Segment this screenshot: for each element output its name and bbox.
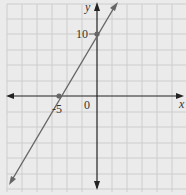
x-axis-label: x bbox=[178, 97, 185, 111]
chart: 10 -5 0 y x bbox=[0, 0, 186, 195]
point-x-intercept bbox=[56, 93, 61, 98]
line-arrow-up-icon bbox=[110, 2, 118, 11]
origin-label: 0 bbox=[84, 98, 90, 112]
y-intercept-label: 10 bbox=[76, 27, 88, 41]
y-axis-label: y bbox=[84, 0, 91, 14]
line-arrow-down-icon bbox=[9, 176, 16, 185]
x-intercept-label: -5 bbox=[52, 102, 62, 116]
line-graph: 10 -5 0 y x bbox=[0, 0, 186, 195]
y-axis-up-arrow-icon bbox=[94, 2, 100, 11]
point-y-intercept bbox=[94, 31, 99, 36]
